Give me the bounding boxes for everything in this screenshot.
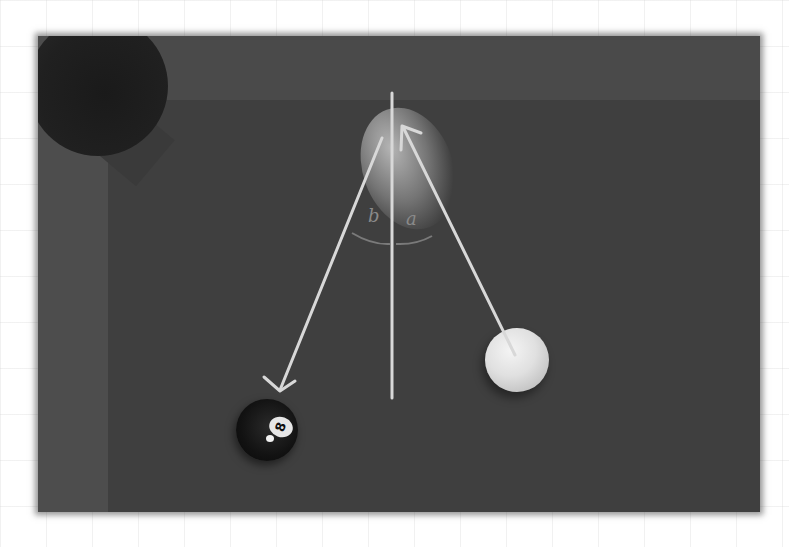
eight-ball: 8 <box>236 399 298 461</box>
eight-ball-highlight <box>266 435 274 442</box>
angle-a-label: a <box>406 208 417 229</box>
cue-ball <box>485 328 549 392</box>
pool-table-photo: 8 <box>38 36 760 512</box>
angle-b-label: b <box>368 205 380 226</box>
